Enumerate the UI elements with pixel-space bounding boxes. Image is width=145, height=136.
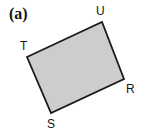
vertex-label-r: R [126,83,135,95]
panel-label: (a) [9,5,28,23]
vertex-label-t: T [20,40,27,52]
vertex-label-u: U [96,5,105,17]
vertex-label-s: S [47,118,55,130]
quadrilateral-shape [27,22,124,113]
figure-panel: (a) T U R S [0,0,145,136]
